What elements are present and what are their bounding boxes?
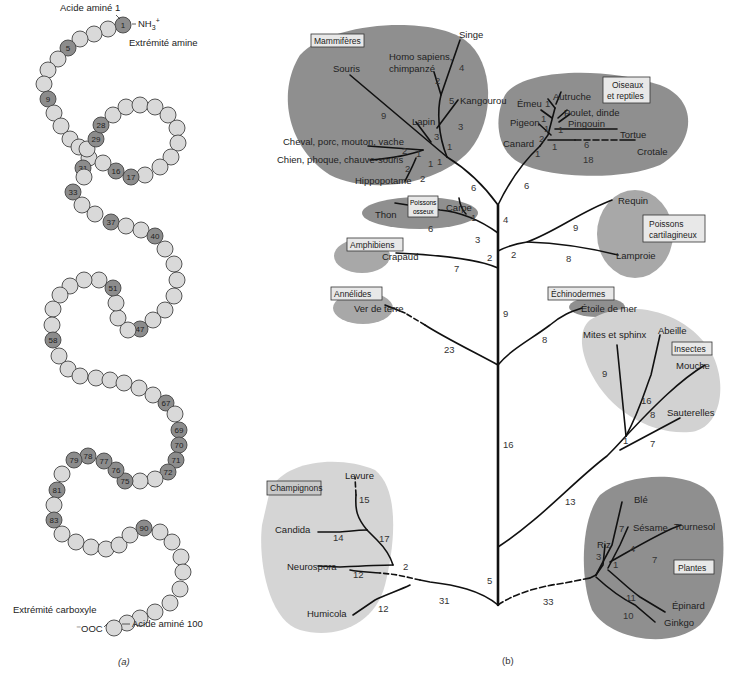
ooc-label: ⁻OOC (76, 623, 103, 634)
bead-number: 83 (50, 516, 59, 525)
species-canard: Canard (503, 138, 534, 149)
amino-acid-bead (72, 368, 88, 384)
branch-length-number: 1 (558, 124, 563, 135)
branch-length-number: 1 (544, 123, 549, 134)
amino-acid-bead (147, 471, 163, 487)
branch-length-number: 4 (503, 214, 508, 225)
species-homo-2: chimpanzé (389, 63, 435, 74)
branch-length-number: 1 (623, 435, 628, 446)
panel-b-caption: (b) (502, 655, 514, 666)
amino-acid-bead (170, 135, 186, 151)
amino-acid-bead (173, 549, 189, 565)
bead-number: 17 (127, 173, 136, 182)
branch-length-number: 13 (565, 496, 576, 507)
group-cart-fish-1: Poissons (649, 219, 684, 229)
branch-length-number: 1 (613, 559, 618, 570)
amino-acid-bead (52, 287, 68, 303)
species-humicola: Humicola (307, 608, 347, 619)
amino-acid-bead (118, 218, 134, 234)
branch-length-number: 4 (459, 62, 464, 73)
amino-acid-bead (132, 97, 148, 113)
species-chien: Chien, phoque, chauve-souris (277, 154, 403, 165)
amino-acid-bead (95, 155, 111, 171)
species-ble: Blé (634, 494, 648, 505)
species-abeille: Abeille (658, 325, 687, 336)
amino-acid-bead (106, 620, 122, 636)
bead-number: 28 (97, 121, 106, 130)
protein-chain-panel: 1593133374047515867697071727576777879818… (13, 2, 203, 667)
bead-number: 72 (164, 468, 173, 477)
species-emeu: Émeu (517, 98, 542, 109)
amino-acid-bead (157, 241, 173, 257)
species-lamproie: Lamproie (616, 250, 656, 261)
bead-number: 1 (121, 21, 126, 30)
amino-acid-bead (118, 99, 134, 115)
bead-number: 51 (109, 284, 118, 293)
branch-length-number: 8 (566, 253, 571, 264)
branch-length-number: 6 (471, 182, 476, 193)
species-lapin: Lapin (412, 116, 435, 127)
branch-length-number: 6 (524, 180, 529, 191)
bead-number: 16 (112, 167, 121, 176)
species-sauterelles: Sauterelles (667, 407, 715, 418)
species-poulet: Poulet, dinde (564, 107, 619, 118)
branch-length-number: 31 (439, 595, 450, 606)
branch-length-number: 3 (458, 121, 463, 132)
carboxyl-end-label: Extrémité carboxyle (13, 604, 96, 615)
bead-number: 47 (136, 325, 145, 334)
branch-length-number: 12 (353, 569, 364, 580)
amino-acid-bead (164, 534, 180, 550)
bead-number: 70 (175, 441, 184, 450)
branch-length-number: 9 (381, 110, 386, 121)
branch-length-number: 14 (333, 532, 344, 543)
branch-length-number: 2 (402, 145, 407, 156)
branch-length-number: 16 (503, 439, 514, 450)
species-hippo: Hippopotame (355, 175, 412, 186)
amino-acid-bead (88, 370, 104, 386)
bead-number: 78 (84, 452, 93, 461)
species-candida: Candida (275, 524, 311, 535)
group-bony-fish-1: Poissons (410, 199, 437, 206)
species-riz: Riz (597, 539, 611, 550)
species-etoile: Étoile de mer (581, 303, 637, 314)
amino-acid-bead (54, 466, 70, 482)
bead-number: 69 (175, 426, 184, 435)
branch-length-number: 2 (403, 561, 408, 572)
group-echinoderms: Échinodermes (551, 289, 605, 299)
species-autruche: Autruche (553, 91, 591, 102)
branch-length-number: 16 (641, 395, 652, 406)
bead-number: 79 (70, 456, 79, 465)
amino-acid-bead (91, 272, 107, 288)
branch-length-number: 7 (650, 438, 655, 449)
group-annelids: Annélides (334, 289, 371, 299)
amino-acid-1-label: Acide aminé 1 (60, 2, 120, 13)
group-birds-1: Oiseaux (612, 80, 644, 90)
species-carpe: Carpe (446, 202, 472, 213)
branch-length-number: 10 (623, 610, 634, 621)
branch-length-number: 2 (420, 173, 425, 184)
group-amphibians: Amphibiens (350, 240, 394, 250)
species-pingouin: Pingouin (568, 118, 605, 129)
branch-length-number: 17 (379, 533, 390, 544)
branch-length-number: 7 (454, 263, 459, 274)
amino-acid-bead (131, 380, 147, 396)
branch-length-number: 2 (405, 163, 410, 174)
amino-acid-bead (152, 159, 168, 175)
branch-length-number: 4 (630, 543, 635, 554)
branch-length-number: 15 (359, 494, 370, 505)
branch-length-number: 12 (378, 603, 389, 614)
bead-number: 67 (162, 399, 171, 408)
bead-number: 90 (140, 524, 149, 533)
branch-length-number: 1 (471, 212, 476, 223)
branch-length-number: 1 (437, 156, 442, 167)
branch-length-number: 1 (447, 141, 452, 152)
group-bony-fish-2: osseux (413, 208, 434, 215)
branch-length-number: 33 (543, 596, 554, 607)
amino-acid-bead (83, 539, 99, 555)
species-epinard: Épinard (672, 600, 705, 611)
species-requin: Requin (618, 195, 648, 206)
group-cart-fish-2: cartilagineux (649, 230, 697, 240)
species-crapaud: Crapaud (382, 251, 418, 262)
amino-acid-bead (110, 310, 126, 326)
bead-number: 33 (69, 188, 78, 197)
